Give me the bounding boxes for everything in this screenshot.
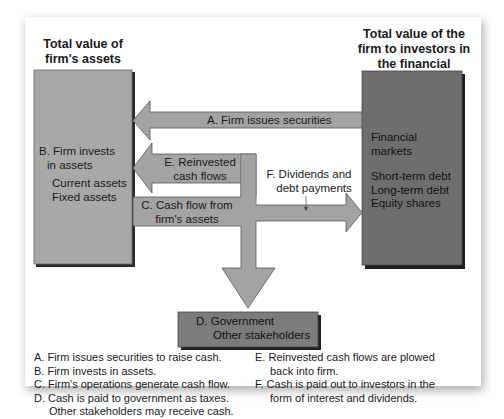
legend-item: form of interest and dividends. [255,392,435,406]
legend-item: back into firm. [255,365,435,379]
gov-box-text: D. Government Other stakeholders [196,315,310,342]
left-box-title: B. Firm invests in assets [39,145,115,172]
right-box-item: Short-term debt [371,170,451,184]
arrow-c-label-line: C. Cash flow from [136,199,238,213]
legend-item: C. Firm's operations generate cash flow. [34,378,234,392]
legend-left: A. Firm issues securities to raise cash.… [34,351,234,419]
arrow-e-label: E. Reinvested cash flows [158,156,242,183]
legend-item: B. Firm invests in assets. [34,365,234,379]
left-box-items: Current assets Fixed assets [52,177,127,204]
arrow-f-label-line: F. Dividends and [261,168,357,182]
right-box [362,71,462,265]
right-box-item: Equity shares [371,197,451,211]
arrow-a-label: A. Firm issues securities [207,114,332,128]
right-box-items: Short-term debt Long-term debt Equity sh… [371,170,451,211]
right-box-title: Financial markets [371,131,417,158]
legend-item: D. Cash is paid to government as taxes. [34,392,234,406]
arrow-c-label: C. Cash flow from firm's assets [136,199,238,226]
gov-box-line: D. Government [196,315,310,329]
arrow-f-label-line: debt payments [261,182,357,196]
legend-right: E. Reinvested cash flows are plowed back… [255,351,435,405]
right-box-item: Long-term debt [371,184,451,198]
legend-item: F. Cash is paid out to investors in the [255,378,435,392]
left-box-item: Fixed assets [52,191,127,205]
arrow-e-label-line: cash flows [158,170,242,184]
left-box-item: Current assets [52,177,127,191]
gov-box-line: Other stakeholders [196,329,310,343]
right-box-title-line: markets [371,145,417,159]
right-box-title-line: Financial [371,131,417,145]
arrow-e-label-line: E. Reinvested [158,156,242,170]
left-box-title-line: in assets [39,159,115,173]
arrow-c-label-line: firm's assets [136,213,238,227]
arrow-f-label: F. Dividends and debt payments [261,168,357,195]
left-box-title-line: B. Firm invests [39,145,115,159]
legend-item: A. Firm issues securities to raise cash. [34,351,234,365]
seam-cover [242,155,256,205]
legend-item: Other stakeholders may receive cash. [34,405,234,419]
legend-item: E. Reinvested cash flows are plowed [255,351,435,365]
